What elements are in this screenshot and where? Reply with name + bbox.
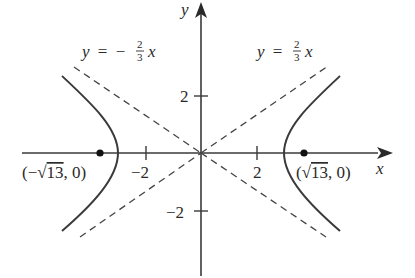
focus-left-close: , 0) <box>64 163 87 182</box>
asym-neg-eq: = <box>98 42 108 61</box>
svg-text:(−√13, 0): (−√13, 0) <box>22 163 86 182</box>
asym-neg-sign: − <box>116 42 126 61</box>
focus-right-dot <box>300 149 307 156</box>
x-axis-label: x <box>375 159 384 178</box>
asym-pos-den: 3 <box>294 51 300 63</box>
x-tick-label-neg2: −2 <box>131 163 149 182</box>
focus-right-close: , 0) <box>328 163 351 182</box>
asym-pos-eq: = <box>273 42 283 61</box>
svg-text:y = −: y = − <box>80 42 125 61</box>
x-axis-arrow-icon <box>377 147 393 159</box>
asymptote-label-positive: y = 2 3 x <box>255 38 313 63</box>
x-tick-label-2: 2 <box>253 163 262 182</box>
asymptote-negative-upper <box>74 67 201 153</box>
hyperbola-diagram: x y −2 2 2 −2 y = − 2 3 x y = 2 3 x (−√1… <box>0 0 415 278</box>
asym-neg-var: x <box>147 42 156 61</box>
y-axis-label: y <box>179 0 189 19</box>
focus-left-dot <box>96 149 103 156</box>
asymptote-label-negative: y = − 2 3 x <box>80 38 156 63</box>
svg-text:y =: y = <box>255 42 282 61</box>
y-tick-label-2: 2 <box>180 87 189 106</box>
asym-pos-var: x <box>304 42 313 61</box>
asym-neg-y: y <box>80 42 90 61</box>
asym-pos-y: y <box>255 42 265 61</box>
asymptote-positive-upper <box>201 66 328 153</box>
focus-right-label: (√13, 0) <box>296 163 351 182</box>
focus-left-label: (−√13, 0) <box>22 163 86 182</box>
focus-right-radicand: 13 <box>311 163 328 182</box>
asym-pos-num: 2 <box>294 38 300 50</box>
focus-left-open: (− <box>22 163 37 182</box>
asym-neg-den: 3 <box>137 51 143 63</box>
asym-neg-num: 2 <box>137 38 143 50</box>
y-tick-label-neg2: −2 <box>166 203 184 222</box>
focus-left-radicand: 13 <box>47 163 64 182</box>
svg-text:(√13, 0): (√13, 0) <box>296 163 351 182</box>
